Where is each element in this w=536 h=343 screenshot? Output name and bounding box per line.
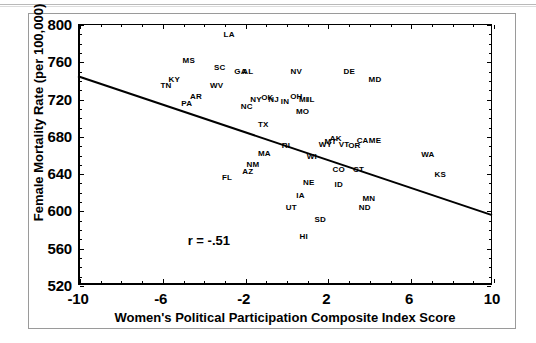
data-point-label: NV [291, 68, 303, 76]
axis-tick [184, 25, 185, 27]
axis-tick [487, 211, 491, 212]
axis-tick [266, 25, 267, 27]
axis-tick [225, 281, 226, 283]
axis-tick [80, 221, 82, 222]
axis-tick [225, 25, 226, 27]
axis-tick [80, 165, 82, 166]
axis-tick [489, 81, 491, 82]
axis-tick [246, 25, 247, 29]
axis-tick [489, 221, 491, 222]
data-point-label: OR [348, 142, 360, 150]
axis-tick [432, 281, 433, 283]
axis-tick [101, 281, 102, 283]
scatter-plot: 520560600640680720760800 -10-6-22610 LAM… [0, 0, 536, 343]
axis-tick [80, 34, 82, 35]
axis-tick [489, 146, 491, 147]
axis-tick [489, 128, 491, 129]
axis-tick [308, 281, 309, 283]
axis-tick [80, 193, 82, 194]
data-point-label: CO [333, 166, 345, 174]
axis-tick [411, 25, 412, 29]
data-point-label: DE [343, 68, 355, 76]
data-point-label: WV [210, 82, 223, 90]
figure-card: 520560600640680720760800 -10-6-22610 LAM… [0, 0, 536, 343]
data-point-label: FL [222, 174, 232, 182]
axis-tick [204, 25, 205, 27]
data-point-label: AL [242, 68, 253, 76]
axis-tick [489, 230, 491, 231]
axis-tick [142, 281, 143, 283]
axis-tick [349, 281, 350, 283]
axis-tick [80, 81, 82, 82]
axis-tick [453, 281, 454, 283]
data-point-label: WI [307, 153, 317, 161]
axis-tick [266, 281, 267, 283]
x-axis-tick-label: 2 [301, 290, 351, 307]
axis-tick [80, 258, 82, 259]
axis-tick [489, 156, 491, 157]
axis-tick [80, 146, 82, 147]
axis-tick [473, 25, 474, 27]
axis-tick [489, 72, 491, 73]
data-point-label: MO [296, 108, 309, 116]
data-point-label: RI [282, 142, 290, 150]
axis-tick [80, 25, 81, 29]
axis-tick [246, 279, 247, 283]
data-point-label: UT [286, 204, 297, 212]
correlation-annotation: r = -.51 [188, 233, 230, 248]
axis-tick [80, 137, 84, 138]
data-point-label: TX [258, 121, 269, 129]
data-point-label: ME [369, 137, 381, 145]
axis-tick [473, 281, 474, 283]
data-point-label: MA [258, 150, 271, 158]
y-axis-tick-label: 560 [34, 240, 72, 257]
axis-tick [453, 25, 454, 27]
axis-tick [80, 72, 82, 73]
axis-tick [391, 25, 392, 27]
axis-tick [121, 25, 122, 27]
data-point-label: WY [319, 141, 332, 149]
axis-tick [80, 90, 82, 91]
axis-tick [80, 239, 82, 240]
axis-tick [80, 211, 84, 212]
axis-tick [328, 25, 329, 29]
axis-tick [487, 137, 491, 138]
axis-tick [80, 202, 82, 203]
x-axis-tick-label: -2 [219, 290, 269, 307]
data-point-label: SD [314, 216, 326, 224]
axis-tick [80, 156, 82, 157]
data-point-label: MD [369, 76, 382, 84]
axis-tick [80, 174, 84, 175]
data-point-label: NC [241, 103, 253, 111]
data-point-label: NJ [268, 96, 279, 104]
data-point-label: LA [224, 31, 235, 39]
axis-tick [121, 281, 122, 283]
data-point-label: TN [160, 82, 171, 90]
axis-tick [489, 118, 491, 119]
x-axis-title: Women's Political Participation Composit… [78, 310, 492, 325]
axis-tick [489, 183, 491, 184]
axis-tick [487, 100, 491, 101]
axis-tick [370, 25, 371, 27]
axis-tick [204, 281, 205, 283]
axis-tick [494, 279, 495, 283]
axis-tick [101, 25, 102, 27]
axis-tick [80, 53, 82, 54]
axis-tick [80, 286, 84, 287]
axis-tick [487, 174, 491, 175]
axis-tick [370, 281, 371, 283]
axis-tick [489, 258, 491, 259]
axis-tick [489, 90, 491, 91]
data-point-label: KS [434, 171, 446, 179]
axis-tick [142, 25, 143, 27]
axis-tick [432, 25, 433, 27]
axis-tick [80, 100, 84, 101]
axis-tick [163, 279, 164, 283]
axis-tick [80, 249, 84, 250]
axis-tick [487, 25, 491, 26]
axis-tick [487, 286, 491, 287]
data-point-label: NE [303, 179, 315, 187]
x-axis-tick-label: 6 [384, 290, 434, 307]
axis-tick [184, 281, 185, 283]
axis-tick [80, 128, 82, 129]
